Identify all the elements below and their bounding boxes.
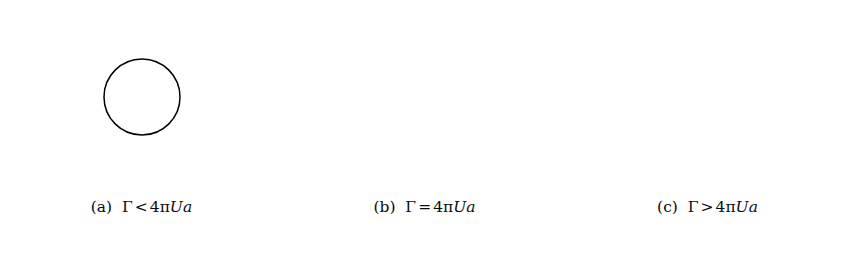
panel-c: (c) Γ>4πUa — [566, 0, 849, 256]
speed-symbol-b: U — [453, 198, 466, 216]
panel-b: (b) Γ=4πUa — [283, 0, 566, 256]
caption-label-b: (b) — [373, 198, 395, 216]
coefficient-c: 4 — [716, 198, 726, 216]
relation-a: < — [133, 198, 150, 216]
caption-label-c: (c) — [657, 198, 678, 216]
caption-a: (a) Γ<4πUa — [0, 196, 283, 218]
coefficient-a: 4 — [150, 198, 160, 216]
caption-label-a: (a) — [91, 198, 112, 216]
streamline-plot-b — [283, 0, 566, 196]
streamline-plot-a — [0, 0, 283, 196]
pi-symbol-a: π — [160, 198, 170, 216]
coefficient-b: 4 — [433, 198, 443, 216]
streamline-plot-c — [566, 0, 849, 196]
speed-symbol-c: U — [736, 198, 749, 216]
relation-c: > — [699, 198, 716, 216]
radius-symbol-a: a — [183, 198, 192, 216]
gamma-symbol-b: Γ — [405, 198, 416, 216]
relation-b: = — [416, 198, 433, 216]
gamma-symbol-a: Γ — [122, 198, 133, 216]
pi-symbol-c: π — [725, 198, 735, 216]
radius-symbol-b: a — [466, 198, 475, 216]
caption-c: (c) Γ>4πUa — [566, 196, 849, 218]
streamline-svg-a — [0, 0, 283, 196]
cylinder — [104, 59, 180, 135]
figure-container: (a) Γ<4πUa (b) Γ=4πUa (c) Γ>4πUa — [0, 0, 849, 256]
speed-symbol-a: U — [170, 198, 183, 216]
caption-b: (b) Γ=4πUa — [283, 196, 566, 218]
gamma-symbol-c: Γ — [688, 198, 699, 216]
streamline-svg-c — [566, 0, 849, 196]
radius-symbol-c: a — [749, 198, 758, 216]
panel-a: (a) Γ<4πUa — [0, 0, 283, 256]
pi-symbol-b: π — [443, 198, 453, 216]
streamline-svg-b — [283, 0, 566, 196]
